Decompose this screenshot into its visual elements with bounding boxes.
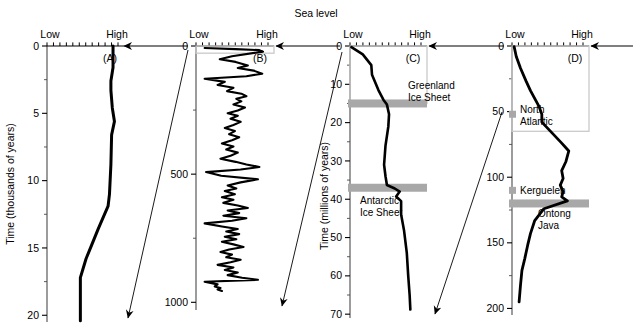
panel-C-tag: (C) [406,52,421,64]
panel-B-y-tick-label: 500 [170,168,188,180]
panel-C-y-tick-label: 20 [330,116,342,128]
panel-A-axis-label-high: High [106,28,128,40]
panel-A-y-tick-label: 0 [33,40,39,52]
panel-B-axis-label-low: Low [189,28,209,40]
figure-canvas: Sea levelLowHigh05101520(A)LowHigh050010… [0,0,633,335]
greenland-ice-sheet-label-line2: Ice Sheet [408,92,450,103]
sea-level-figure: Sea levelLowHigh05101520(A)LowHigh050010… [0,0,633,335]
figure-background [0,0,633,335]
panel-A-y-tick-label: 5 [33,107,39,119]
ontong-java-label-line2: Java [538,220,560,231]
panel-C-y-tick-label: 10 [330,78,342,90]
panel-C-y-tick-label: 70 [330,308,342,320]
panel-B-axis-label-high: High [256,28,278,40]
north-atlantic-label-line1: North [520,104,544,115]
figure-title: Sea level [294,7,337,19]
kerguelen-label-line1: Kerguelen [520,185,566,196]
panel-D-y-tick-label: 100 [486,171,504,183]
antarctic-ice-sheet-label-line2: Ice Sheet [360,207,402,218]
panel-B-y-tick-label: 0 [182,40,188,52]
panel-A-y-tick-label: 10 [27,174,39,186]
panel-A-axis-label-low: Low [40,28,60,40]
panel-D-axis-label-low: Low [505,28,525,40]
panel-D-axis-label-high: High [571,28,593,40]
panel-C-y-tick-label: 0 [336,40,342,52]
panel-D-y-tick-label: 200 [486,302,504,314]
kerguelen-marker [509,187,516,194]
panel-A-tag: (A) [103,52,117,64]
panel-D-y-tick-label: 50 [492,105,504,117]
panel-A-y-axis-title: Time (thousands of years) [4,123,16,245]
panel-B-y-tick-label: 1000 [165,296,189,308]
panel-C-y-tick-label: 50 [330,231,342,243]
panel-A-y-tick-label: 15 [27,242,39,254]
panel-D-tag: (D) [568,52,583,64]
panel-D-y-tick-label: 150 [486,236,504,248]
panel-C-y-tick-label: 60 [330,269,342,281]
north-atlantic-marker [509,111,516,118]
panel-C-y-tick-label: 40 [330,193,342,205]
panel-C-axis-label-low: Low [343,28,363,40]
panel-A-y-tick-label: 20 [27,309,39,321]
antarctic-ice-sheet-label-line1: Antarctic [360,195,399,206]
panel-C-axis-label-high: High [409,28,431,40]
panel-B-tag: (B) [253,52,267,64]
panel-C-y-axis-title: Time (millions of years) [318,142,330,250]
ontong-java-label-line1: Ontong [538,208,571,219]
panel-D-y-tick-label: 0 [498,40,504,52]
north-atlantic-label-line2: Atlantic [520,116,553,127]
panel-C-y-tick-label: 30 [330,155,342,167]
greenland-ice-sheet-label-line1: Greenland [408,80,455,91]
